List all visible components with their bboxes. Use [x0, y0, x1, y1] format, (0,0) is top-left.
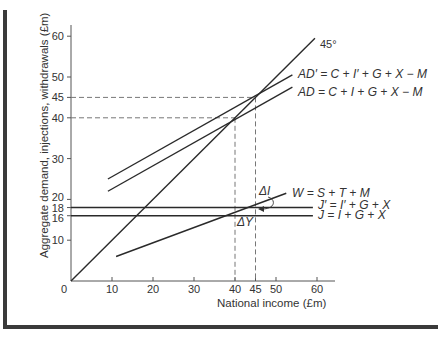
x-ticks: 10203040455060	[106, 277, 323, 295]
label-j: J = I + G + X	[317, 208, 387, 222]
x-tick-label: 30	[188, 283, 200, 295]
y-tick-label: 10	[52, 234, 64, 246]
series-line-ad	[108, 87, 293, 191]
y-tick-label: 30	[52, 153, 64, 165]
x-tick-label: 10	[106, 283, 118, 295]
y-tick-label: 60	[52, 30, 64, 42]
x-tick-label: 50	[270, 283, 282, 295]
series-line-45	[71, 38, 315, 281]
label-ad: AD = C + I + G + X − M	[297, 85, 422, 99]
y-tick-label: 40	[52, 112, 64, 124]
x-tick-label: 40	[229, 283, 241, 295]
label-delta-y: ΔY	[236, 215, 254, 229]
y-tick-label: 45	[52, 91, 64, 103]
y-tick-label: 50	[52, 71, 64, 83]
x-tick-label: 45	[249, 283, 261, 295]
label-delta-i: ΔI	[258, 184, 271, 198]
x-tick-label: 60	[311, 283, 323, 295]
y-ticks: 101618203040455060	[52, 30, 71, 246]
x-tick-label: 20	[147, 283, 159, 295]
series-lines	[71, 38, 315, 281]
origin-label: 0	[61, 283, 67, 295]
series-line-w	[116, 193, 286, 256]
label-ad-prime: AD′ = C + I′ + G + X − M	[297, 67, 427, 81]
x-axis-title: National income (£m)	[217, 297, 326, 309]
chart: 101618203040455060 10203040455060 0 Nati…	[0, 0, 438, 344]
y-tick-label: 20	[52, 191, 64, 203]
series-line-ad	[108, 75, 293, 179]
label-45-degree: 45°	[320, 38, 337, 50]
y-axis-title: Aggregate demand, injections, withdrawal…	[38, 12, 50, 258]
